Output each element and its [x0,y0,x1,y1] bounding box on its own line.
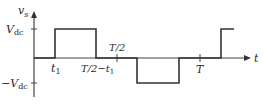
neg-vdc-label: −Vdc [1,77,28,91]
period-label: T [196,63,205,76]
waveform-line [34,29,234,83]
waveform-diagram: vs Vdc −Vdc t1 T/2−t1 T/2 T t [0,0,263,109]
y-axis-arrow-icon [31,11,37,18]
waveform-svg: vs Vdc −Vdc t1 T/2−t1 T/2 T t [0,0,263,109]
t1-label: t1 [51,62,61,76]
x-axis-arrow-icon [244,55,251,61]
half-minus-t1-label: T/2−t1 [81,63,114,76]
x-axis-label: t [254,52,259,65]
half-period-label: T/2 [109,42,125,53]
vdc-label: Vdc [6,23,24,37]
y-axis-label: vs [18,4,28,19]
